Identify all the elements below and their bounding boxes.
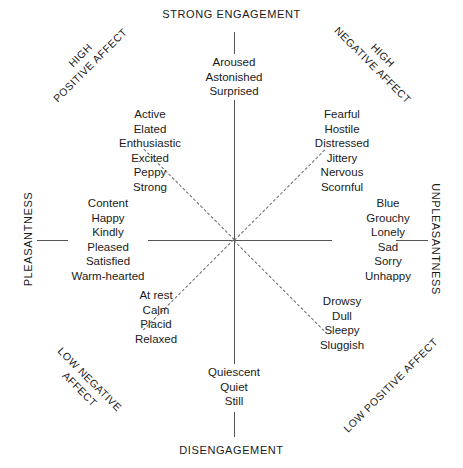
affect-word: Elated (96, 122, 204, 137)
circumplex-affect-diagram: STRONG ENGAGEMENT DISENGAGEMENT PLEASANT… (0, 0, 463, 468)
word-cluster-high-positive-affect: Active Elated Enthusiastic Excited Peppy… (96, 107, 204, 195)
word-cluster-low-negative-affect: At rest Calm Placid Relaxed (108, 288, 204, 346)
word-cluster-low-positive-affect: Drowsy Dull Sleepy Sluggish (298, 294, 386, 352)
affect-word: Distressed (288, 136, 396, 151)
affect-word: Sluggish (298, 338, 386, 353)
affect-word: Quiet (174, 380, 294, 395)
affect-word: Grouchy (340, 211, 436, 226)
affect-word: Lonely (340, 225, 436, 240)
axis-label-strong-engagement: STRONG ENGAGEMENT (0, 8, 463, 20)
vertical-axis-upper-segment (234, 32, 235, 54)
affect-word: Calm (108, 303, 204, 318)
diagonal-label-high-positive-affect: HIGH POSITIVE AFFECT (33, 8, 138, 113)
diagonal-label-high-negative-affect: HIGH NEGATIVE AFFECT (326, 8, 431, 113)
diagonal-label-line2: POSITIVE AFFECT (43, 18, 138, 113)
affect-word: Excited (96, 151, 204, 166)
affect-word: Surprised (174, 84, 294, 99)
affect-word: Peppy (96, 165, 204, 180)
axis-label-disengagement: DISENGAGEMENT (0, 444, 463, 456)
vertical-axis-lower-segment (234, 412, 235, 437)
affect-word: Relaxed (108, 332, 204, 347)
diagonal-label-line1: HIGH (33, 8, 128, 103)
horizontal-axis-mid-right-segment (234, 240, 332, 241)
affect-word: Jittery (288, 151, 396, 166)
diagonal-label-line1: HIGH (336, 8, 431, 103)
affect-word: Quiescent (174, 365, 294, 380)
axis-label-pleasantness: PLEASANTNESS (22, 159, 34, 319)
affect-word: Drowsy (298, 294, 386, 309)
affect-word: Hostile (288, 122, 396, 137)
affect-word: Enthusiastic (96, 136, 204, 151)
vertical-axis-mid-lower-segment (234, 240, 235, 364)
word-cluster-high-negative-affect: Fearful Hostile Distressed Jittery Nervo… (288, 107, 396, 195)
diagonal-label-low-negative-affect: LOW NEGATIVE AFFECT (33, 332, 138, 437)
affect-word: Happy (48, 211, 168, 226)
affect-word: Sad (340, 240, 436, 255)
affect-word: At rest (108, 288, 204, 303)
word-cluster-unpleasantness: Blue Grouchy Lonely Sad Sorry Unhappy (340, 196, 436, 284)
affect-word: Scornful (288, 180, 396, 195)
affect-word: Sleepy (298, 323, 386, 338)
affect-word: Dull (298, 309, 386, 324)
affect-word: Strong (96, 180, 204, 195)
affect-word: Pleased (48, 240, 168, 255)
diagonal-label-line2: AFFECT (33, 342, 128, 437)
word-cluster-high-engagement: Aroused Astonished Surprised (174, 55, 294, 99)
vertical-axis-mid-upper-segment (234, 100, 235, 240)
affect-word: Astonished (174, 70, 294, 85)
word-cluster-pleasantness: Content Happy Kindly Pleased Satisfied W… (48, 196, 168, 284)
affect-word: Still (174, 394, 294, 409)
affect-word: Unhappy (340, 269, 436, 284)
word-cluster-disengagement: Quiescent Quiet Still (174, 365, 294, 409)
affect-word: Nervous (288, 165, 396, 180)
affect-word: Placid (108, 317, 204, 332)
affect-word: Active (96, 107, 204, 122)
affect-word: Satisfied (48, 254, 168, 269)
affect-word: Blue (340, 196, 436, 211)
diagonal-label-line2: NEGATIVE AFFECT (326, 18, 421, 113)
affect-word: Aroused (174, 55, 294, 70)
affect-word: Content (48, 196, 168, 211)
affect-word: Kindly (48, 225, 168, 240)
affect-word: Sorry (340, 254, 436, 269)
affect-word: Warm-hearted (48, 269, 168, 284)
affect-word: Fearful (288, 107, 396, 122)
